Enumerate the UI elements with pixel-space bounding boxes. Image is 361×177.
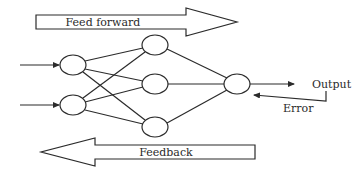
hidden-node-2	[142, 74, 168, 94]
output-layer	[224, 74, 250, 94]
error-label: Error	[283, 102, 314, 115]
output-node	[224, 74, 250, 94]
input-arrows	[20, 65, 59, 105]
feedback-label: Feedback	[139, 146, 193, 159]
error-arrow	[254, 91, 326, 101]
input-node-2	[60, 95, 86, 115]
feedback-arrow: Feedback	[41, 138, 255, 166]
output-label: Output	[312, 78, 352, 91]
hidden-node-1	[142, 35, 168, 55]
neural-network-diagram: Feed forward Output Error	[0, 0, 361, 177]
hidden-node-3	[142, 117, 168, 137]
input-layer	[60, 55, 86, 115]
input-node-1	[60, 55, 86, 75]
feed-forward-label: Feed forward	[66, 16, 141, 29]
feed-forward-arrow: Feed forward	[36, 8, 237, 36]
hidden-layer	[142, 35, 168, 137]
